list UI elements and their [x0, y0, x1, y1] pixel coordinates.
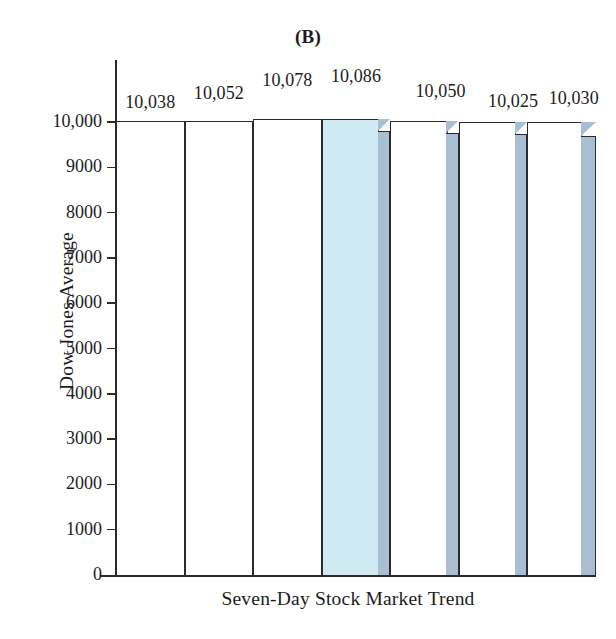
- bar: [390, 121, 448, 576]
- y-axis-tick-label: 7000: [16, 247, 102, 268]
- y-axis-tick: [107, 167, 116, 169]
- bar-side-face: [446, 133, 459, 576]
- y-axis-tick-label: 3000: [16, 428, 102, 449]
- bar-chart: (B) Dow Jones Average 010002000300040005…: [0, 0, 616, 639]
- y-axis-tick: [107, 121, 116, 123]
- y-axis-tick: [107, 438, 116, 440]
- bar: [459, 122, 517, 576]
- bar: [253, 119, 322, 576]
- bar-value-label: 10,086: [322, 66, 391, 87]
- y-axis-tick-label: 9000: [16, 156, 102, 177]
- plot-area: [116, 60, 596, 576]
- bar-top-bevel: [378, 119, 390, 131]
- bar-value-label: 10,078: [253, 70, 322, 91]
- x-axis-title: Seven-Day Stock Market Trend: [100, 588, 596, 610]
- bar: [322, 119, 380, 576]
- y-axis-tick-label: 0: [16, 564, 102, 585]
- y-axis-tick: [107, 393, 116, 395]
- y-axis-tick-label: 1000: [16, 519, 102, 540]
- bar-top-bevel: [515, 122, 527, 134]
- y-axis-tick-label: 5000: [16, 338, 102, 359]
- bar-top-bevel: [581, 122, 596, 136]
- bar-value-label: 10,030: [539, 88, 608, 109]
- bar-side-face: [515, 134, 528, 576]
- bar: [116, 121, 185, 576]
- bar-value-label: 10,050: [406, 81, 475, 102]
- bar-value-label: 10,038: [116, 92, 185, 113]
- bar: [527, 122, 582, 576]
- y-axis-tick: [107, 302, 116, 304]
- bar-side-face: [581, 136, 597, 576]
- y-axis-tick: [107, 348, 116, 350]
- y-axis-tick: [107, 484, 116, 486]
- bar-top-bevel: [446, 121, 458, 133]
- bar-side-face: [378, 131, 391, 576]
- y-axis-tick: [107, 257, 116, 259]
- bar: [185, 121, 254, 576]
- y-axis-tick: [107, 529, 116, 531]
- y-axis-tick-label: 10,000: [16, 111, 102, 132]
- bar-value-label: 10,052: [185, 83, 254, 104]
- y-axis-tick-label: 2000: [16, 473, 102, 494]
- chart-title: (B): [0, 26, 616, 48]
- y-axis-tick: [107, 212, 116, 214]
- y-axis-tick-label: 4000: [16, 383, 102, 404]
- y-axis-tick-label: 6000: [16, 292, 102, 313]
- bar-value-label: 10,025: [479, 91, 548, 112]
- y-axis-tick-label: 8000: [16, 202, 102, 223]
